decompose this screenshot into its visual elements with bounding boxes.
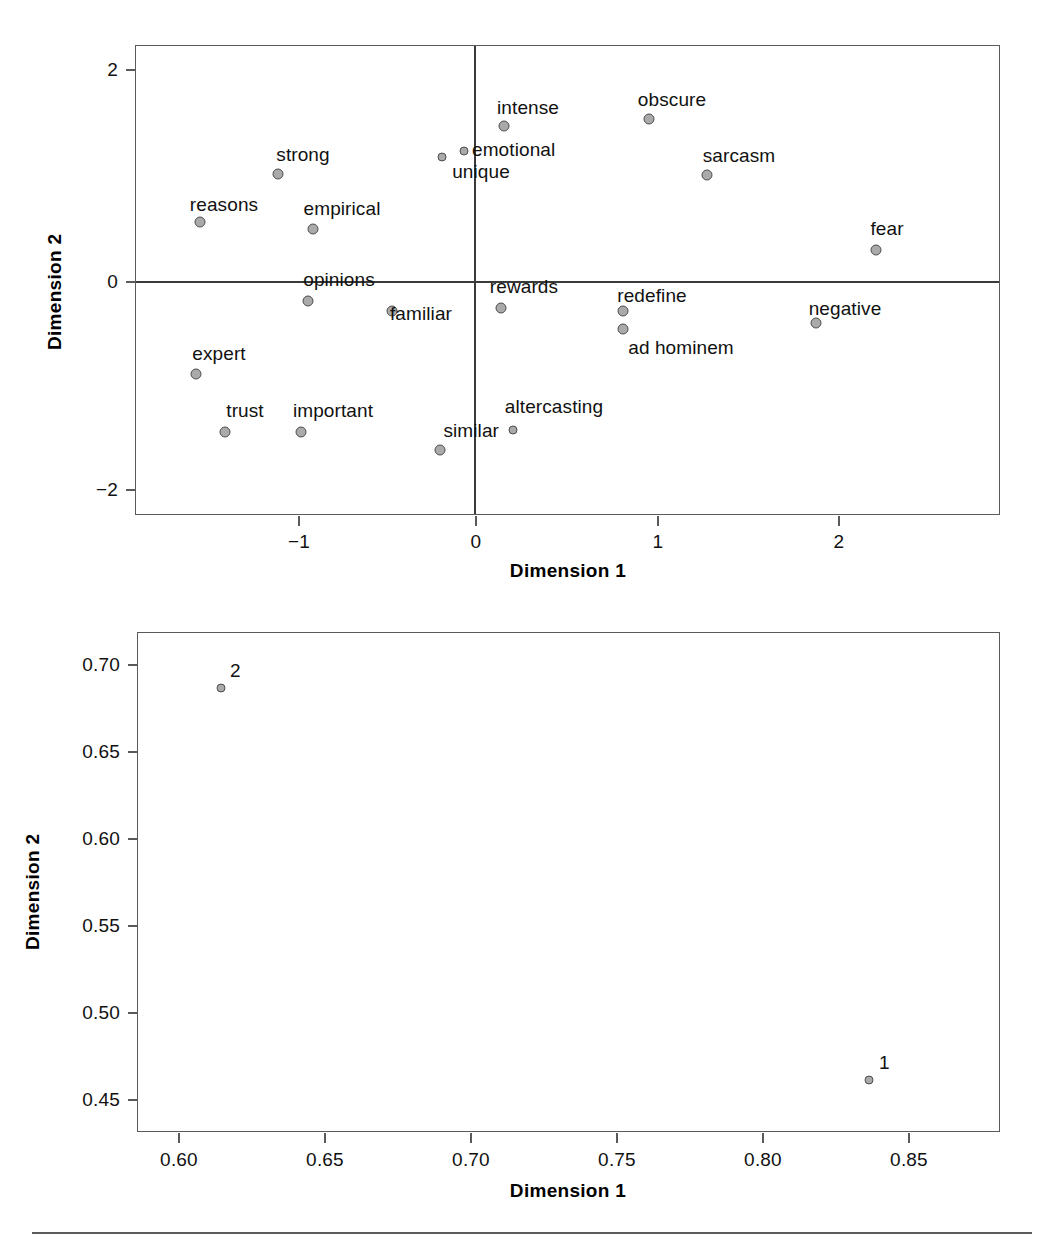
x-tick-bottom-0 (178, 1133, 180, 1143)
x-tick-label-top-0: −1 (288, 531, 310, 553)
x-tick-bottom-1 (324, 1133, 326, 1143)
plot-area-bottom (137, 632, 1000, 1132)
data-point (871, 245, 882, 256)
data-point-label: unique (452, 161, 510, 183)
data-point (273, 169, 284, 180)
x-tick-bottom-3 (616, 1133, 618, 1143)
data-point-label: reasons (190, 194, 258, 216)
x-tick-label-bottom-5: 0.85 (890, 1149, 928, 1171)
x-tick-label-bottom-4: 0.80 (744, 1149, 782, 1171)
data-point-label: altercasting (505, 396, 603, 418)
data-point-label: intense (497, 97, 559, 119)
x-axis-title-top: Dimension 1 (510, 560, 626, 582)
data-point-label: redefine (617, 285, 686, 307)
data-point (195, 217, 206, 228)
y-tick-label-bottom-3: 0.55 (44, 915, 120, 937)
panel-bottom-scatter: 0.70 0.65 0.60 0.55 0.50 0.45 0.60 0.65 … (0, 600, 1041, 1210)
x-tick-bottom-4 (762, 1133, 764, 1143)
data-point (618, 306, 629, 317)
y-tick-bottom-4 (128, 1012, 137, 1014)
data-point (865, 1076, 874, 1085)
data-point-label: 2 (230, 660, 241, 682)
y-tick-bottom-3 (128, 925, 137, 927)
x-tick-label-top-3: 2 (834, 531, 845, 553)
y-tick-label-top-2: −2 (74, 479, 118, 501)
x-tick-label-bottom-0: 0.60 (160, 1149, 198, 1171)
y-tick-bottom-2 (128, 838, 137, 840)
x-tick-label-bottom-1: 0.65 (306, 1149, 344, 1171)
data-point (308, 224, 319, 235)
data-point (220, 427, 231, 438)
x-tick-top-0 (298, 516, 300, 526)
y-tick-top-2 (126, 489, 135, 491)
y-tick-label-bottom-2: 0.60 (44, 828, 120, 850)
data-point-label: emotional (472, 139, 555, 161)
y-tick-bottom-0 (128, 664, 137, 666)
y-tick-label-top-0: 2 (80, 59, 118, 81)
data-point (296, 427, 307, 438)
data-point-label: important (293, 400, 373, 422)
data-point (435, 445, 446, 456)
data-point (499, 121, 510, 132)
x-tick-bottom-5 (908, 1133, 910, 1143)
data-point (217, 684, 226, 693)
x-axis-title-bottom: Dimension 1 (510, 1180, 626, 1202)
reference-line-y0 (136, 281, 999, 283)
data-point-label: obscure (638, 89, 706, 111)
data-point (618, 324, 629, 335)
data-point (496, 303, 507, 314)
y-tick-label-bottom-0: 0.70 (44, 654, 120, 676)
data-point-label: 1 (879, 1052, 890, 1074)
x-tick-top-3 (838, 516, 840, 526)
y-axis-title-top: Dimension 2 (44, 234, 66, 350)
x-tick-top-2 (657, 516, 659, 526)
y-tick-bottom-5 (128, 1099, 137, 1101)
data-point (644, 114, 655, 125)
data-point-label: strong (276, 144, 329, 166)
panel-top-scatter: 2 0 −2 −1 0 1 2 Dimension 1 Dimension 2 … (0, 0, 1041, 600)
data-point-label: trust (226, 400, 263, 422)
y-tick-label-bottom-5: 0.45 (44, 1089, 120, 1111)
data-point (509, 426, 518, 435)
x-tick-label-top-1: 0 (471, 531, 482, 553)
y-tick-bottom-1 (128, 751, 137, 753)
y-tick-label-bottom-1: 0.65 (44, 741, 120, 763)
data-point-label: expert (192, 343, 245, 365)
data-point-label: fear (870, 218, 903, 240)
data-point-label: sarcasm (703, 145, 776, 167)
x-tick-label-bottom-3: 0.75 (598, 1149, 636, 1171)
x-tick-top-1 (475, 516, 477, 526)
y-tick-top-0 (126, 69, 135, 71)
x-tick-bottom-2 (470, 1133, 472, 1143)
plot-area-top (135, 45, 1000, 515)
data-point-label: empirical (304, 198, 381, 220)
data-point-label: negative (809, 298, 882, 320)
x-tick-label-top-2: 1 (653, 531, 664, 553)
data-point-label: rewards (490, 276, 558, 298)
data-point-label: familiar (390, 303, 452, 325)
y-tick-label-top-1: 0 (80, 271, 118, 293)
bottom-separator (32, 1232, 1032, 1234)
y-axis-title-bottom: Dimension 2 (22, 834, 44, 950)
figure-root: 2 0 −2 −1 0 1 2 Dimension 1 Dimension 2 … (0, 0, 1041, 1245)
data-point-label: ad hominem (628, 337, 734, 359)
data-point (702, 170, 713, 181)
data-point (460, 147, 469, 156)
reference-line-x0 (474, 46, 476, 514)
data-point (303, 296, 314, 307)
data-point-label: opinions (303, 269, 375, 291)
data-point (438, 153, 447, 162)
y-tick-label-bottom-4: 0.50 (44, 1002, 120, 1024)
data-point (191, 369, 202, 380)
y-tick-top-1 (126, 281, 135, 283)
data-point-label: similar (443, 420, 499, 442)
x-tick-label-bottom-2: 0.70 (452, 1149, 490, 1171)
